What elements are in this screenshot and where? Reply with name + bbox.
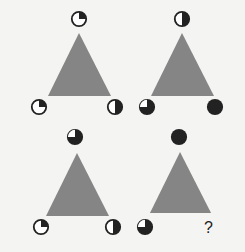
triangle [149, 151, 213, 215]
triangle [45, 152, 111, 218]
panel-4: ? [122, 126, 244, 252]
question-mark: ? [204, 220, 213, 236]
panel-3 [0, 126, 122, 252]
circle-full-icon [170, 128, 188, 146]
circle-quarter-top-right-icon [70, 10, 88, 28]
circle-three-quarter-icon [138, 98, 156, 116]
circle-full-icon [206, 98, 224, 116]
circle-half-right-icon [173, 10, 191, 28]
triangle [47, 32, 113, 98]
circle-three-quarter-icon [66, 128, 84, 146]
panel-1 [0, 0, 122, 126]
circle-three-quarter-icon [136, 218, 154, 236]
triangle [150, 32, 216, 98]
circle-quarter-top-right-icon [30, 98, 48, 116]
circle-quarter-top-right-icon [32, 218, 50, 236]
panel-2 [122, 0, 244, 126]
circle-half-right-icon [104, 218, 122, 236]
